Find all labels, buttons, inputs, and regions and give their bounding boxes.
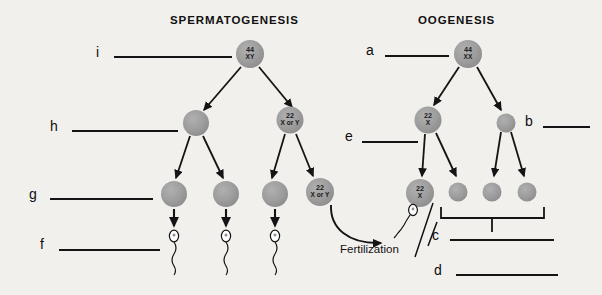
polar-body-cell-1 xyxy=(449,183,468,202)
answer-blank-h[interactable] xyxy=(72,130,178,132)
arrow-polar-body-to-polar-body-2 xyxy=(494,132,501,176)
primary-oocyte-cell xyxy=(454,40,482,68)
answer-letter-h: h xyxy=(50,118,58,134)
spermatid-cell-2 xyxy=(213,181,239,207)
arrow-oocyte-to-secondary-oocyte xyxy=(434,67,459,105)
arrow-secondary-oocyte-to-polar-body xyxy=(436,133,456,176)
arrow-primary-to-secondary-right xyxy=(259,67,292,107)
fertilizing-sperm-cell xyxy=(394,204,417,238)
answer-letter-i: i xyxy=(96,44,99,60)
polar-body-cell-2 xyxy=(483,183,502,202)
answer-blank-f[interactable] xyxy=(59,249,160,251)
answer-blank-b[interactable] xyxy=(543,126,590,128)
spermatid-cell-4 xyxy=(306,178,334,206)
first-polar-body-cell xyxy=(497,114,516,133)
answer-letter-f: f xyxy=(40,236,44,252)
fertilization-arrow xyxy=(331,205,381,243)
answer-letter-c: c xyxy=(432,227,439,243)
answer-letter-d: d xyxy=(434,262,442,278)
oogenesis-title: OOGENESIS xyxy=(418,14,495,26)
spermatid-cell-3 xyxy=(262,181,288,207)
polar-bodies-bracket xyxy=(441,207,544,218)
arrow-secondary2-to-spermatid-4 xyxy=(296,134,313,176)
answer-letter-g: g xyxy=(29,186,37,202)
sperm-cell-1 xyxy=(169,230,178,275)
arrow-secondary-oocyte-to-ovum xyxy=(422,134,425,176)
answer-blank-d[interactable] xyxy=(456,274,558,276)
spermatogenesis-title: SPERMATOGENESIS xyxy=(170,14,299,26)
diagram-canvas: SPERMATOGENESIS OOGENESIS 44 XY 22 X or … xyxy=(0,0,602,295)
answer-letter-a: a xyxy=(366,42,374,58)
answer-blank-g[interactable] xyxy=(50,198,153,200)
arrow-primary-to-secondary-left xyxy=(204,67,241,110)
secondary-oocyte-cell xyxy=(415,107,442,134)
answer-letter-b: b xyxy=(525,113,533,129)
fertilization-label: Fertilization xyxy=(340,243,399,255)
arrow-secondary2-to-spermatid-3 xyxy=(272,134,285,178)
arrow-secondary1-to-spermatid-2 xyxy=(203,136,223,178)
answer-blank-e[interactable] xyxy=(362,141,418,143)
spermatid-cell-1 xyxy=(161,181,187,207)
answer-blank-c[interactable] xyxy=(450,239,554,241)
sperm-cell-2 xyxy=(221,230,230,275)
secondary-spermatocyte-cell-2 xyxy=(277,107,304,134)
primary-spermatocyte-cell xyxy=(236,40,264,68)
arrow-secondary1-to-spermatid-1 xyxy=(176,136,190,178)
arrow-oocyte-to-first-polar-body xyxy=(477,67,501,110)
answer-blank-i[interactable] xyxy=(114,56,232,58)
answer-blank-a[interactable] xyxy=(385,55,449,57)
arrow-polar-body-to-polar-body-3 xyxy=(511,132,524,176)
polar-body-cell-3 xyxy=(518,183,537,202)
sperm-cell-3 xyxy=(270,230,279,275)
answer-letter-e: e xyxy=(345,128,353,144)
ovum-cell xyxy=(406,179,434,207)
secondary-spermatocyte-cell-1 xyxy=(183,110,209,136)
